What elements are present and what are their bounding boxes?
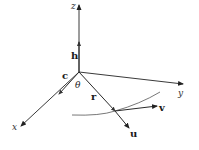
x-axis-label: x [12, 122, 17, 132]
r-vector: r [79, 72, 115, 111]
x-axis: x [12, 72, 79, 132]
h-vector: h [71, 42, 79, 72]
z-axis: z [70, 1, 79, 72]
c-label: c [62, 70, 68, 81]
u-vector: u [115, 111, 137, 139]
z-axis-label: z [70, 1, 76, 11]
vector-diagram: z h y x c θ r u v [0, 0, 199, 150]
h-label: h [71, 50, 79, 61]
theta-label: θ [75, 80, 81, 90]
u-label: u [130, 128, 137, 139]
r-label: r [91, 91, 97, 102]
v-vector: v [115, 102, 166, 113]
y-axis-label: y [177, 88, 184, 98]
v-label: v [158, 102, 166, 113]
